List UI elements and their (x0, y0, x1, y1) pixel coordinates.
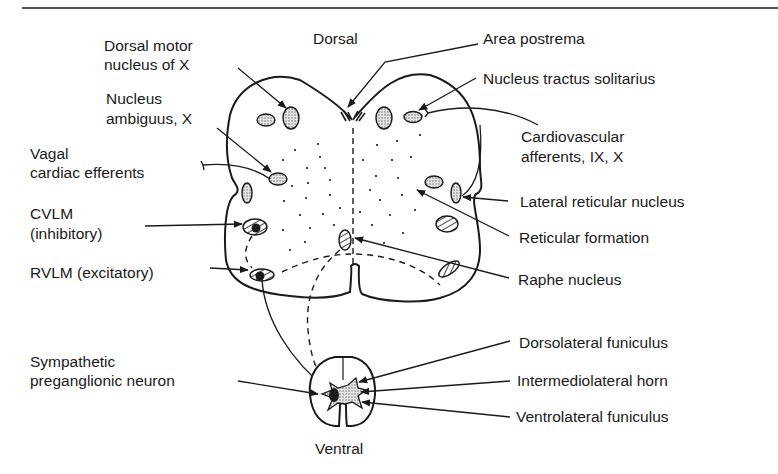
label-ventrolateral: Ventrolateral funiculus (516, 408, 669, 426)
raphe (339, 230, 351, 250)
leader-dorsolateral (359, 341, 510, 382)
dmnx-left (283, 107, 299, 129)
dashed-raphe-to-cord (307, 250, 340, 372)
reticular-dots (282, 134, 421, 251)
nuclei-stippled (242, 107, 461, 203)
label-cvlm-2: (inhibitory) (30, 225, 102, 243)
label-vagal-2: cardiac efferents (30, 164, 144, 182)
vagal-efferent-curve (203, 164, 270, 179)
label-nts: Nucleus tractus solitarius (483, 70, 655, 88)
label-rvlm: RVLM (excitatory) (30, 264, 154, 282)
leader-sympathetic (238, 381, 318, 394)
label-cardio-2: afferents, IX, X (521, 148, 623, 166)
leader-nucleus-ambiguus (217, 128, 271, 172)
label-lateral-reticular: Lateral reticular nucleus (520, 193, 685, 211)
label-cardio-1: Cardiovascular (521, 128, 624, 146)
preganglionic-neuron (329, 388, 339, 402)
label-dorsal: Dorsal (313, 30, 358, 48)
label-symp-1: Sympathetic (30, 353, 115, 371)
label-na-1: Nucleus (106, 90, 162, 108)
label-reticular-formation: Reticular formation (519, 229, 649, 247)
nucleus-ambiguus (269, 173, 287, 185)
label-vagal-1: Vagal (30, 145, 69, 163)
label-intermediolateral: Intermediolateral horn (517, 372, 668, 390)
leader-dmnx (238, 68, 286, 108)
dashed-cvlm-rvlm (246, 236, 252, 268)
leader-ventrolateral (362, 402, 510, 417)
label-dmnx-2: nucleus of X (104, 56, 189, 74)
dashed-arc-lower (282, 254, 440, 285)
label-area-postrema: Area postrema (483, 30, 585, 48)
label-dorsolateral: Dorsolateral funiculus (519, 334, 668, 352)
leader-lateral-reticular (463, 197, 508, 201)
leader-reticular-formation (417, 190, 509, 236)
leader-raphe (355, 238, 509, 278)
area-postrema-shape (341, 111, 365, 121)
label-cvlm-1: CVLM (30, 205, 73, 223)
label-dmnx-1: Dorsal motor (104, 37, 193, 55)
dmnx-right (376, 107, 392, 129)
leader-cvlm (145, 224, 242, 226)
label-raphe: Raphe nucleus (518, 271, 621, 289)
label-symp-2: preganglionic neuron (30, 372, 175, 390)
leader-intermediolateral (361, 381, 510, 392)
cardiovascular-afferent-curve (428, 108, 538, 125)
label-ventral: Ventral (315, 440, 363, 458)
label-na-2: ambiguus, X (106, 110, 192, 128)
